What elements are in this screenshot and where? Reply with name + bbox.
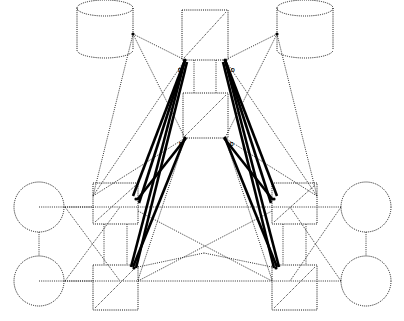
database-cylinder-left-top-ellipse — [77, 0, 133, 16]
edge-mid-cross-b[interactable] — [138, 211, 272, 281]
switch-node-right-bottom-diagonal — [274, 267, 315, 308]
center-node-bottom-diagonal — [185, 95, 226, 136]
edge-centerbot-to-lt[interactable] — [93, 138, 185, 196]
database-cylinder-right[interactable] — [277, 0, 333, 58]
endpoint-circle-right-top[interactable] — [341, 182, 391, 232]
edge-db-right-to-center-top[interactable] — [225, 34, 277, 60]
edge-lb-to-center[interactable] — [138, 253, 204, 267]
edge-db-left-to-boxlt[interactable] — [93, 34, 133, 196]
thin-edge-layer — [39, 34, 366, 281]
database-cylinder-left[interactable] — [77, 0, 133, 58]
node-layer — [14, 0, 391, 310]
center-node-top[interactable] — [182, 10, 228, 60]
port-db-left[interactable] — [131, 32, 134, 35]
port-center-bot-right[interactable] — [223, 136, 226, 139]
endpoint-circle-right-top-outline — [341, 182, 391, 232]
switch-node-right-top[interactable] — [272, 183, 317, 224]
endpoint-circle-right-bottom[interactable] — [341, 256, 391, 306]
port-box-lb[interactable] — [132, 266, 135, 269]
edge-label-bottom-right: D — [230, 141, 234, 147]
port-center-bot-left[interactable] — [183, 136, 186, 139]
switch-node-right-bottom[interactable] — [272, 265, 317, 310]
port-db-right[interactable] — [275, 32, 278, 35]
endpoint-circle-right-bottom-outline — [341, 256, 391, 306]
switch-node-left-bottom-diagonal — [95, 267, 136, 308]
port-box-lt[interactable] — [134, 197, 137, 200]
switch-node-left-bottom[interactable] — [93, 265, 138, 310]
edge-label-top-right: D — [231, 67, 235, 73]
switch-node-right-top-diagonal — [274, 185, 315, 222]
diagram-canvas: DDDD — [0, 0, 404, 321]
port-box-rt[interactable] — [272, 197, 275, 200]
database-cylinder-right-bottom-arc — [277, 50, 333, 58]
center-node-top-diagonal — [184, 12, 226, 58]
edge-label-top-left: D — [178, 67, 182, 73]
database-cylinder-right-top-ellipse — [277, 0, 333, 16]
edge-label-bottom-left: D — [179, 141, 183, 147]
port-center-top-left[interactable] — [183, 58, 186, 61]
database-cylinder-left-bottom-arc — [77, 50, 133, 58]
edge-centerbot-to-rt[interactable] — [225, 138, 317, 196]
edge-db-left-to-center-top[interactable] — [133, 34, 185, 60]
switch-node-left-top[interactable] — [93, 183, 138, 224]
center-node-bottom[interactable] — [183, 93, 228, 138]
port-center-top-right[interactable] — [223, 58, 226, 61]
diagram-svg: DDDD — [0, 0, 404, 321]
edge-rb-to-center[interactable] — [204, 253, 272, 267]
port-box-rb[interactable] — [274, 266, 277, 269]
thick-edge-layer — [131, 60, 279, 268]
